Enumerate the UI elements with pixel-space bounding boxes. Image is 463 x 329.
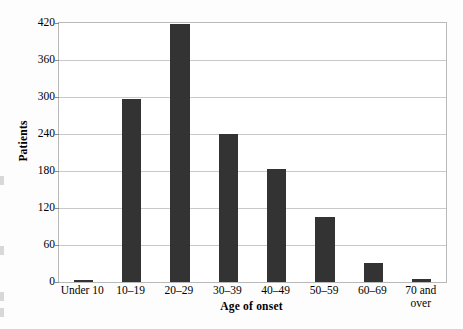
bar-series bbox=[59, 23, 446, 282]
bar bbox=[267, 169, 286, 282]
scan-artifact bbox=[0, 176, 4, 185]
y-axis-tick-label: 0 bbox=[28, 276, 55, 287]
y-axis-tick-label: 420 bbox=[28, 17, 55, 28]
y-axis-tick-label: 180 bbox=[28, 165, 55, 176]
y-axis-tick-label: 240 bbox=[28, 128, 55, 139]
plot-area bbox=[58, 22, 447, 283]
x-axis-tick-label: Under 10 bbox=[58, 284, 106, 297]
bar bbox=[412, 279, 431, 282]
bar-chart-figure: Patients 060120180240300360420 Under 101… bbox=[0, 0, 463, 329]
x-axis-title: Age of onset bbox=[58, 300, 445, 312]
y-axis-tick-label: 360 bbox=[28, 54, 55, 65]
y-axis-tick-label: 300 bbox=[28, 91, 55, 102]
x-axis-tick-label: 20–29 bbox=[155, 284, 203, 297]
scan-artifact bbox=[0, 292, 4, 301]
y-axis-tick-labels: 060120180240300360420 bbox=[28, 0, 55, 329]
x-axis-tick-label: 60–69 bbox=[348, 284, 396, 297]
x-axis-tick-label: 10–19 bbox=[106, 284, 154, 297]
y-axis-tick-mark bbox=[55, 282, 59, 283]
bar bbox=[170, 24, 189, 282]
x-axis-tick-label: 40–49 bbox=[252, 284, 300, 297]
x-axis-tick-label: 50–59 bbox=[300, 284, 348, 297]
scan-artifact bbox=[0, 308, 4, 317]
bar bbox=[122, 99, 141, 282]
y-axis-tick-label: 120 bbox=[28, 202, 55, 213]
bar bbox=[315, 217, 334, 282]
x-axis-tick-label: 30–39 bbox=[203, 284, 251, 297]
bar bbox=[219, 134, 238, 282]
bar bbox=[364, 263, 383, 282]
bar bbox=[74, 280, 93, 282]
y-axis-tick-label: 60 bbox=[28, 239, 55, 250]
scan-artifact bbox=[0, 246, 4, 255]
